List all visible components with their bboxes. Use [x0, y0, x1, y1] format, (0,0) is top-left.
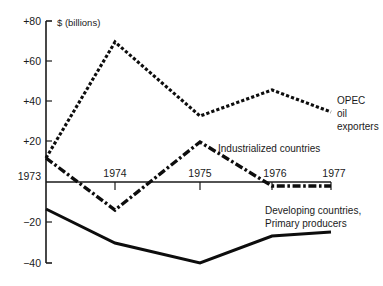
line-chart: +80 +60 +40 +20 1973 −20 −40 $ (billions…: [0, 0, 383, 286]
x-axis-label-1975: 1975: [188, 167, 212, 179]
x-axis-label-1977: 1977: [322, 167, 346, 179]
x-axis-label-1974: 1974: [103, 167, 127, 179]
y-axis-label-20: +20: [23, 135, 41, 147]
series-label-industrialized: Industrialized countries: [218, 143, 320, 154]
y-axis-label-80: +80: [23, 15, 41, 27]
y-axis-label-minus-20: −20: [23, 216, 41, 228]
chart-container: +80 +60 +40 +20 1973 −20 −40 $ (billions…: [0, 0, 383, 286]
series-label-opec-line-2: oil: [337, 108, 347, 119]
y-axis-label-60: +60: [23, 55, 41, 67]
series-label-opec-line-1: OPEC: [337, 95, 365, 106]
series-label-developing-line-2: Primary producers: [265, 218, 347, 229]
y-axis-label-minus-40: −40: [23, 257, 41, 269]
series-label-developing-line-1: Developing countries,: [265, 205, 361, 216]
x-axis-label-1976: 1976: [263, 167, 287, 179]
chart-background: [0, 0, 383, 286]
y-axis-label-1973: 1973: [18, 170, 42, 182]
y-axis-label-40: +40: [23, 95, 41, 107]
y-axis-unit-title: $ (billions): [57, 17, 100, 28]
series-label-opec-line-3: exporters: [337, 121, 379, 132]
